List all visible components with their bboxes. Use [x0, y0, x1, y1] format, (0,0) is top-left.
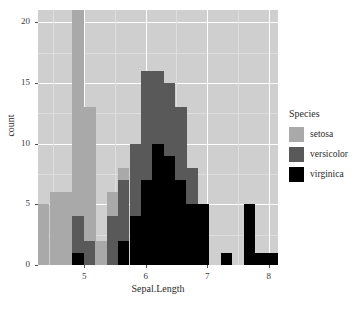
y-tick-label: 20: [2, 16, 30, 26]
legend-items: setosaversicolorvirginica: [289, 125, 348, 183]
legend-item-setosa[interactable]: setosa: [289, 125, 348, 143]
legend-swatch-versicolor: [289, 147, 304, 162]
bar-segment-setosa: [38, 204, 49, 265]
bar-segment-virginica: [221, 253, 232, 265]
bar-segment-versicolor: [186, 168, 197, 204]
histogram-bar: [84, 107, 95, 265]
bar-segment-virginica: [244, 204, 255, 265]
x-tick-label: 8: [254, 271, 284, 281]
histogram-bar: [130, 144, 141, 265]
histogram-bar: [72, 10, 83, 265]
histogram-bar: [255, 253, 266, 265]
x-tick-mark: [269, 265, 270, 268]
gridline-vertical-minor: [238, 10, 239, 265]
histogram-bar: [198, 204, 209, 265]
bar-segment-versicolor: [141, 71, 152, 180]
bar-segment-setosa: [50, 192, 61, 265]
bar-segment-virginica: [255, 253, 266, 265]
y-axis-title: count: [5, 96, 16, 156]
bar-segment-setosa: [84, 107, 95, 241]
bar-segment-versicolor: [152, 71, 163, 144]
bar-segment-virginica: [198, 204, 209, 265]
y-tick-mark: [35, 22, 38, 23]
bar-segment-versicolor: [164, 83, 175, 156]
x-axis-title: Sepal.Length: [38, 283, 278, 294]
histogram-bar: [95, 241, 106, 265]
legend-swatch-setosa: [289, 127, 304, 142]
x-tick-mark: [146, 265, 147, 268]
y-tick-label: 15: [2, 77, 30, 87]
x-tick-label: 6: [131, 271, 161, 281]
gridline-vertical: [269, 10, 270, 265]
legend-label: virginica: [310, 169, 344, 179]
legend-item-versicolor[interactable]: versicolor: [289, 145, 348, 163]
bar-segment-setosa: [118, 168, 129, 180]
histogram-bar: [186, 168, 197, 265]
histogram-bar: [118, 168, 129, 265]
bar-segment-virginica: [164, 156, 175, 265]
x-tick-label: 5: [69, 271, 99, 281]
bar-segment-virginica: [152, 144, 163, 265]
bar-segment-virginica: [186, 204, 197, 265]
bar-segment-virginica: [141, 180, 152, 265]
chart-root: 05101520 5678 Sepal.Length count Species…: [0, 0, 361, 312]
bar-segment-versicolor: [107, 216, 118, 265]
legend-label: setosa: [310, 129, 333, 139]
histogram-bar: [244, 204, 255, 265]
bar-segment-virginica: [118, 241, 129, 265]
plot-panel: [38, 10, 278, 265]
bar-segment-versicolor: [175, 107, 186, 180]
histogram-bar: [38, 204, 49, 265]
histogram-bar: [221, 253, 232, 265]
bar-segment-versicolor: [84, 241, 95, 265]
histogram-bar: [107, 192, 118, 265]
x-tick-label: 7: [192, 271, 222, 281]
histogram-bar: [61, 192, 72, 265]
bar-segment-versicolor: [72, 216, 83, 252]
histogram-bar: [141, 71, 152, 265]
legend-title: Species: [289, 108, 348, 119]
bar-segment-setosa: [107, 192, 118, 216]
bar-segment-virginica: [175, 180, 186, 265]
legend-label: versicolor: [310, 149, 348, 159]
y-tick-mark: [35, 83, 38, 84]
y-tick-mark: [35, 204, 38, 205]
y-tick-mark: [35, 265, 38, 266]
histogram-bar: [266, 253, 277, 265]
histogram-bar: [175, 107, 186, 265]
bar-segment-versicolor: [130, 144, 141, 217]
bar-segment-virginica: [130, 216, 141, 265]
y-tick-mark: [35, 144, 38, 145]
legend-swatch-virginica: [289, 167, 304, 182]
bar-segment-versicolor: [118, 180, 129, 241]
y-tick-label: 5: [2, 198, 30, 208]
x-tick-mark: [207, 265, 208, 268]
y-tick-label: 0: [2, 259, 30, 269]
histogram-bar: [152, 71, 163, 265]
bar-segment-virginica: [72, 253, 83, 265]
legend: Species setosaversicolorvirginica: [289, 108, 348, 185]
bar-segment-setosa: [72, 10, 83, 216]
bar-segment-virginica: [266, 253, 277, 265]
histogram-bar: [50, 192, 61, 265]
bar-segment-setosa: [61, 192, 72, 265]
legend-item-virginica[interactable]: virginica: [289, 165, 348, 183]
x-tick-mark: [84, 265, 85, 268]
histogram-bar: [164, 83, 175, 265]
bar-segment-setosa: [95, 241, 106, 265]
